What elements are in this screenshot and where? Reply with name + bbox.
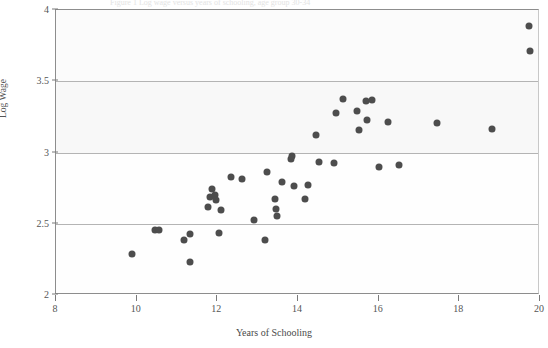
data-point <box>354 108 361 115</box>
data-point <box>313 132 320 139</box>
data-point <box>238 175 245 182</box>
y-axis-tick-label: 4 <box>44 4 49 15</box>
x-axis-tick <box>539 295 540 301</box>
y-axis-tick-label: 3 <box>44 146 49 157</box>
plot-area <box>55 9 539 294</box>
x-axis-label: Years of Schooling <box>0 327 548 338</box>
data-point <box>216 230 223 237</box>
plot-band <box>56 81 538 152</box>
x-axis-tick-label: 12 <box>211 303 221 314</box>
x-axis-tick-label: 14 <box>292 303 302 314</box>
data-point <box>395 162 402 169</box>
x-axis-tick <box>458 295 459 301</box>
data-point <box>186 231 193 238</box>
data-point <box>251 217 258 224</box>
y-axis-tick <box>52 80 58 81</box>
plot-band <box>56 10 538 81</box>
y-axis-tick-label: 2.5 <box>37 217 50 228</box>
data-point <box>356 127 363 134</box>
y-axis-tick <box>52 9 58 10</box>
data-point <box>316 158 323 165</box>
y-axis-tick <box>52 222 58 223</box>
data-point <box>213 197 220 204</box>
data-point <box>129 251 136 258</box>
y-axis-label: Log Wage <box>0 79 8 118</box>
data-point <box>273 205 280 212</box>
data-point <box>217 207 224 214</box>
x-axis-tick-label: 10 <box>131 303 141 314</box>
data-point <box>368 96 375 103</box>
data-point <box>156 227 163 234</box>
data-point <box>489 125 496 132</box>
data-point <box>375 164 382 171</box>
x-axis-tick <box>55 295 56 301</box>
x-axis-tick-label: 16 <box>373 303 383 314</box>
gridline-horizontal <box>56 153 538 154</box>
data-point <box>271 195 278 202</box>
data-point <box>526 47 533 54</box>
data-point <box>331 160 338 167</box>
x-axis-tick <box>297 295 298 301</box>
x-axis-tick <box>378 295 379 301</box>
gridline-horizontal <box>56 224 538 225</box>
data-point <box>340 96 347 103</box>
data-point <box>228 174 235 181</box>
data-point <box>434 120 441 127</box>
data-point <box>274 212 281 219</box>
data-point <box>385 118 392 125</box>
data-point <box>181 237 188 244</box>
x-axis-tick-label: 8 <box>53 303 58 314</box>
data-point <box>289 153 296 160</box>
data-point <box>278 178 285 185</box>
data-point <box>304 181 311 188</box>
y-axis-tick-label: 2 <box>44 289 49 300</box>
data-point <box>187 258 194 265</box>
y-axis-tick-label: 3.5 <box>37 75 50 86</box>
data-point <box>302 195 309 202</box>
scatter-chart: Figure 1 Log wage versus years of school… <box>0 0 548 348</box>
y-axis-tick <box>52 151 58 152</box>
data-point <box>290 182 297 189</box>
x-axis-tick-label: 20 <box>534 303 544 314</box>
gridline-horizontal <box>56 81 538 82</box>
x-axis-tick <box>216 295 217 301</box>
data-point <box>526 22 533 29</box>
data-point <box>332 110 339 117</box>
data-point <box>364 116 371 123</box>
x-axis-tick <box>136 295 137 301</box>
data-point <box>205 204 212 211</box>
x-axis-tick-label: 18 <box>453 303 463 314</box>
data-point <box>261 237 268 244</box>
data-point <box>263 168 270 175</box>
